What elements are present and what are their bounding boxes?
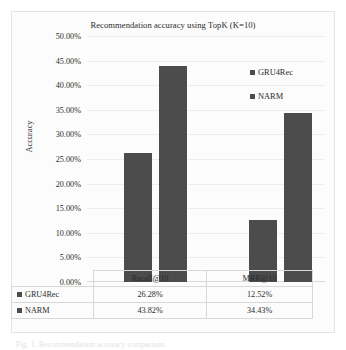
table-rowhead-gru4rec: GRU4Rec bbox=[12, 287, 94, 303]
y-tick-label: 30.00% bbox=[56, 130, 81, 139]
legend-swatch-icon bbox=[250, 70, 255, 75]
gridline bbox=[87, 36, 325, 37]
y-tick-label: 10.00% bbox=[56, 228, 81, 237]
y-tick-label: 35.00% bbox=[56, 105, 81, 114]
table-header-mrr10: MRR@10 bbox=[207, 271, 313, 287]
series-swatch-icon bbox=[17, 308, 22, 313]
chart-data-table: Recall@10 MRR@10 GRU4Rec 26.28% 12.52% N… bbox=[11, 270, 313, 319]
table-rowhead-label: NARM bbox=[25, 306, 50, 315]
legend-item-narm: NARM bbox=[250, 92, 293, 101]
legend-label: NARM bbox=[258, 92, 283, 101]
table-cell-gru4rec-mrr10: 12.52% bbox=[207, 287, 313, 303]
y-tick-label: 50.00% bbox=[56, 32, 81, 41]
table-cell-gru4rec-recall10: 26.28% bbox=[94, 287, 207, 303]
table-rowhead-label: GRU4Rec bbox=[25, 290, 59, 299]
y-tick-label: 15.00% bbox=[56, 204, 81, 213]
table-corner-cell bbox=[12, 271, 94, 287]
table-rowhead-narm: NARM bbox=[12, 303, 94, 319]
table-row: GRU4Rec 26.28% 12.52% bbox=[12, 287, 313, 303]
chart-legend: GRU4Rec NARM bbox=[250, 68, 293, 116]
bar-narm-recall10 bbox=[159, 66, 187, 282]
y-tick-label: 5.00% bbox=[60, 253, 81, 262]
y-axis-tick-labels: 50.00% 45.00% 40.00% 35.00% 30.00% 25.00… bbox=[12, 36, 85, 282]
y-tick-label: 20.00% bbox=[56, 179, 81, 188]
table-cell-narm-recall10: 43.82% bbox=[94, 303, 207, 319]
figure-container: Recommendation accuracy using TopK (K=10… bbox=[0, 0, 346, 350]
chart-title: Recommendation accuracy using TopK (K=10… bbox=[12, 20, 334, 30]
y-tick-label: 25.00% bbox=[56, 155, 81, 164]
legend-item-gru4rec: GRU4Rec bbox=[250, 68, 293, 77]
table-row: Recall@10 MRR@10 bbox=[12, 271, 313, 287]
figure-caption: Fig. 1. Recommendation accuracy comparis… bbox=[16, 340, 165, 350]
bar-narm-mrr10 bbox=[284, 113, 312, 282]
legend-label: GRU4Rec bbox=[258, 68, 293, 77]
table-cell-narm-mrr10: 34.43% bbox=[207, 303, 313, 319]
bar-gru4rec-recall10 bbox=[124, 153, 152, 282]
y-tick-label: 40.00% bbox=[56, 81, 81, 90]
gridline bbox=[87, 61, 325, 62]
legend-swatch-icon bbox=[250, 94, 255, 99]
table-row: NARM 43.82% 34.43% bbox=[12, 303, 313, 319]
table-header-recall10: Recall@10 bbox=[94, 271, 207, 287]
series-swatch-icon bbox=[17, 292, 22, 297]
y-tick-label: 45.00% bbox=[56, 56, 81, 65]
